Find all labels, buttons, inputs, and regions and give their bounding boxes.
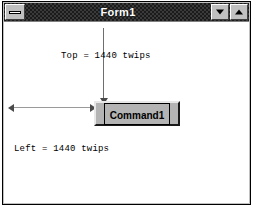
form-client-area[interactable]: Top = 1440 twips Left = 1440 twips Comma…: [4, 21, 249, 203]
left-measure-arrow-line: [11, 107, 95, 108]
control-menu-box-icon[interactable]: [5, 4, 25, 20]
focus-rectangle: Command1: [104, 103, 170, 125]
command1-button-label: Command1: [110, 110, 164, 121]
title-bar[interactable]: Form1: [4, 3, 249, 21]
top-measure-label: Top = 1440 twips: [61, 51, 151, 61]
triangle-down-icon: [216, 10, 224, 15]
maximize-button[interactable]: [230, 4, 248, 20]
window-title: Form1: [25, 3, 211, 21]
command1-button[interactable]: Command1: [94, 101, 180, 126]
window-buttons: [211, 4, 248, 20]
minimize-button[interactable]: [211, 4, 229, 20]
left-measure-arrow-head-start-icon: [8, 104, 14, 112]
top-measure-arrow-line: [103, 28, 104, 100]
form-window: Form1 Top = 1440 twips Left = 1440 twips…: [2, 1, 251, 205]
left-measure-label: Left = 1440 twips: [14, 144, 109, 154]
triangle-up-icon: [235, 10, 243, 15]
